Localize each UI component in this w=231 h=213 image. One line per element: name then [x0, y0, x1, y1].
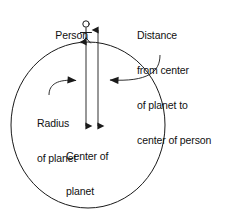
label-center-line1: Center of — [66, 151, 108, 163]
diagram-canvas: Person Distance from center of planet to… — [0, 0, 231, 213]
label-person-text: Person — [55, 29, 88, 41]
label-distance-line1: Distance — [137, 30, 211, 42]
label-distance-line3: of planet to — [137, 100, 211, 112]
label-person: Person — [44, 18, 88, 53]
label-distance-line2: from center — [137, 65, 211, 77]
label-distance: Distance from center of planet to center… — [137, 7, 211, 169]
label-center-line2: planet — [66, 186, 108, 198]
radius-leader-line — [49, 80, 76, 95]
label-distance-line4: center of person — [137, 135, 211, 147]
label-center-of-planet: Center of planet — [66, 128, 108, 213]
